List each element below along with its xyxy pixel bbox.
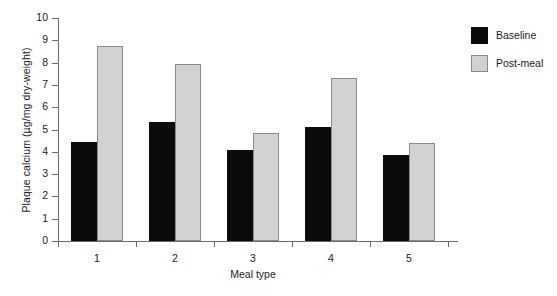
bar-baseline-cat-5 [383,155,409,241]
y-axis-tick: 8 [52,63,58,64]
y-axis-tick-label: 2 [42,189,48,201]
bar-baseline-cat-3 [227,150,253,241]
x-axis-tick [136,241,137,247]
x-axis-category-label: 2 [155,252,195,264]
black-square-swatch [471,27,488,44]
y-axis-tick-label: 1 [42,212,48,224]
y-axis-tick: 4 [52,152,58,153]
bar-chart-figure: Plaque calcium (µg/mg dry-weight) 012345… [0,0,557,296]
bar-postmeal-cat-1 [97,46,123,241]
y-axis-tick-label: 0 [42,234,48,246]
y-axis-tick: 10 [52,18,58,19]
legend-item-label: Baseline [496,29,536,41]
legend-item-post-meal: Post-meal [471,49,557,77]
bar-postmeal-cat-2 [175,64,201,241]
y-axis-tick-label: 4 [42,145,48,157]
bar-postmeal-cat-5 [409,143,435,241]
y-axis-tick-label: 3 [42,167,48,179]
bar-baseline-cat-1 [71,142,97,241]
y-axis-tick: 7 [52,85,58,86]
bar-baseline-cat-4 [305,127,331,241]
y-axis-tick-label: 10 [36,11,48,23]
bar-baseline-cat-2 [149,122,175,241]
x-axis-title: Meal type [58,268,448,280]
y-axis-line [58,18,59,241]
y-axis-tick: 3 [52,174,58,175]
x-axis-tick [214,241,215,247]
x-axis-category-label: 5 [389,252,429,264]
y-axis-tick: 1 [52,219,58,220]
y-axis-tick: 9 [52,40,58,41]
gray-square-swatch [471,55,488,72]
y-axis-title: Plaque calcium (µg/mg dry-weight) [20,10,32,250]
y-axis-tick-label: 6 [42,100,48,112]
chart-legend: BaselinePost-meal [471,21,557,77]
x-axis-tick [58,241,59,247]
x-axis-category-label: 3 [233,252,273,264]
x-axis-category-label: 4 [311,252,351,264]
y-axis-tick-label: 9 [42,33,48,45]
bar-postmeal-cat-4 [331,78,357,241]
x-axis-tick [370,241,371,247]
y-axis-tick: 5 [52,130,58,131]
x-axis-category-label: 1 [77,252,117,264]
y-axis-tick: 6 [52,107,58,108]
y-axis-tick: 2 [52,196,58,197]
x-axis-tick [292,241,293,247]
y-axis-tick-label: 8 [42,56,48,68]
bar-postmeal-cat-3 [253,133,279,241]
legend-item-label: Post-meal [496,57,543,69]
y-axis-tick-label: 7 [42,78,48,90]
plot-area: 012345678910 12345 [58,18,448,241]
legend-item-baseline: Baseline [471,21,557,49]
y-axis-tick-label: 5 [42,123,48,135]
x-axis-tick [448,241,449,247]
x-axis-line [58,241,458,242]
